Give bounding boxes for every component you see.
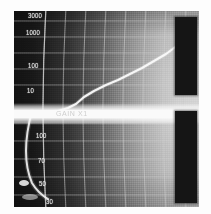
saturated-bright-band <box>14 103 199 125</box>
marker-rect-lower <box>175 111 197 203</box>
scanned-plot-area: 3000 1000 100 10 100 70 50 30 GAIN X1 <box>14 11 199 207</box>
band-label: GAIN X1 <box>56 110 88 117</box>
marker-rect-upper <box>175 17 197 95</box>
screenshot-root: 3000 1000 100 10 100 70 50 30 GAIN X1 <box>0 0 211 214</box>
